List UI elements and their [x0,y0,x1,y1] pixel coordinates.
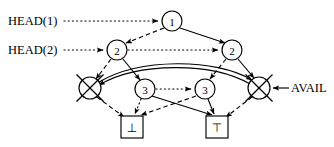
label-avail: AVAIL [291,81,327,95]
edge-node3right-to-box-top [208,99,214,114]
node-2-left[interactable]: 2 [107,40,127,60]
node-2-left-label: 2 [114,45,120,57]
diagram-svg: 1 2 2 3 3 [0,0,334,147]
edge-node3right-to-box-bottom [141,96,196,115]
edge-node1-to-node2left [126,28,164,43]
label-head2: HEAD(2) [8,43,57,57]
label-head1: HEAD(1) [8,14,57,28]
node-3-right-label: 3 [202,84,208,96]
edge-node2left-to-crossed-left [96,59,111,79]
node-crossed-circle-right[interactable] [246,75,273,102]
edge-node3left-to-box-bottom [135,99,141,114]
node-3-left[interactable]: 3 [135,79,155,99]
node-crossed-circle-left[interactable] [77,75,104,102]
edge-node1-to-node2right [180,28,225,43]
node-3-left-label: 3 [142,84,148,96]
node-box-bottom[interactable]: ⊥ [121,116,143,138]
edge-crossed-right-to-box-top [226,97,252,117]
edge-crossed-left-to-box-bottom [97,97,124,117]
node-2-right[interactable]: 2 [222,40,242,60]
node-box-bottom-label: ⊥ [127,121,137,135]
node-3-right[interactable]: 3 [195,79,215,99]
node-box-top-label: ⊤ [212,121,222,135]
node-1-label: 1 [169,16,175,28]
edge-crossed-left-to-crossed-right-arc [99,64,252,82]
node-2-right-label: 2 [229,45,235,57]
node-box-top[interactable]: ⊤ [206,116,228,138]
diagram-canvas: 1 2 2 3 3 [0,0,334,147]
node-1[interactable]: 1 [162,11,182,31]
